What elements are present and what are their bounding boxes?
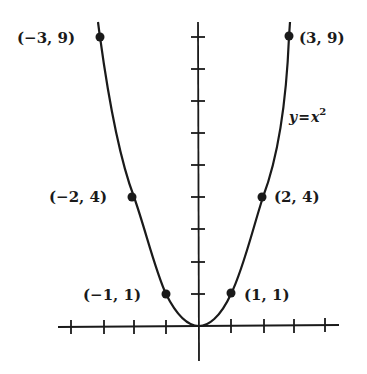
point-3-9 <box>285 32 294 41</box>
label-point-3-9: (3, 9) <box>299 29 345 47</box>
parabola-curve <box>98 22 290 326</box>
point-1-1 <box>227 289 236 298</box>
point-neg2-4 <box>128 193 137 202</box>
equation-label: y=x2 <box>288 106 326 125</box>
label-point-neg3-9: (−3, 9) <box>17 29 75 47</box>
point-2-4 <box>258 193 267 202</box>
label-point-neg1-1: (−1, 1) <box>83 286 141 304</box>
y-axis <box>198 22 199 361</box>
parabola-chart: (−3, 9) (−2, 4) (−1, 1) (1, 1) (2, 4) (3… <box>0 0 367 374</box>
label-point-neg2-4: (−2, 4) <box>49 188 107 206</box>
point-neg1-1 <box>162 290 171 299</box>
label-point-1-1: (1, 1) <box>244 286 290 304</box>
point-neg3-9 <box>96 33 105 42</box>
label-point-2-4: (2, 4) <box>274 188 320 206</box>
